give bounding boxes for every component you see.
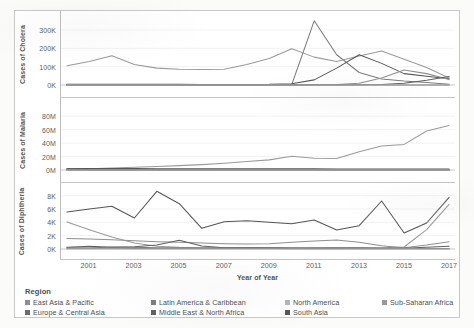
- ylabel-diphtheria: Cases of Diphtheria: [15, 183, 29, 259]
- legend-items: East Asia & PacificEurope & Central Asia…: [25, 298, 455, 320]
- y-tick-label: 300K: [39, 27, 56, 34]
- legend-title: Region: [25, 287, 455, 296]
- y-tick-label: 80M: [42, 113, 56, 120]
- series-line: [67, 238, 449, 247]
- y-tick-label: 4K: [47, 219, 56, 226]
- legend-swatch-icon: [285, 300, 290, 305]
- ylabel-cholera: Cases of Cholera: [15, 11, 29, 97]
- series-line: [67, 21, 449, 85]
- yticks-malaria: 0M20M40M60M80M: [29, 98, 59, 182]
- panel-diphtheria: Cases of Diphtheria 0K2K4K6K8K: [15, 183, 459, 259]
- legend: Region East Asia & PacificEurope & Centr…: [25, 287, 455, 320]
- ylabel-malaria: Cases of Malaria: [15, 98, 29, 182]
- legend-item-label: East Asia & Pacific: [33, 298, 94, 307]
- plot-svg-diphtheria: [61, 183, 455, 259]
- plot-malaria: [60, 98, 455, 182]
- legend-item-label: South Asia: [293, 308, 328, 317]
- x-tick-label: 2007: [216, 261, 232, 270]
- legend-item-label: Europe & Central Asia: [33, 308, 105, 317]
- y-tick-label: 100K: [39, 63, 56, 70]
- legend-item-label: North America: [293, 298, 339, 307]
- y-tick-label: 200K: [39, 45, 56, 52]
- plot-diphtheria: [60, 183, 455, 259]
- legend-item-label: Latin America & Caribbean: [159, 298, 246, 307]
- legend-item[interactable]: South Asia: [285, 308, 328, 317]
- y-tick-label: 40M: [42, 140, 56, 147]
- x-tick-label: 2001: [80, 261, 96, 270]
- x-tick-label: 2009: [261, 261, 277, 270]
- series-line: [67, 191, 449, 233]
- plot-svg-cholera: [61, 11, 455, 97]
- legend-item[interactable]: North America: [285, 298, 339, 307]
- legend-item[interactable]: Latin America & Caribbean: [151, 298, 246, 307]
- y-tick-label: 0K: [47, 82, 56, 89]
- x-tick-label: 2011: [306, 261, 321, 270]
- y-tick-label: 0K: [47, 246, 56, 253]
- legend-item[interactable]: East Asia & Pacific: [25, 298, 94, 307]
- yticks-diphtheria: 0K2K4K6K8K: [29, 183, 59, 259]
- legend-item[interactable]: Middle East & North Africa: [151, 308, 244, 317]
- legend-item[interactable]: Sub-Saharan Africa: [382, 298, 453, 307]
- x-tick-label: 2013: [351, 261, 367, 270]
- y-tick-label: 2K: [47, 232, 56, 239]
- x-axis: 200120032005200720092011201320152017: [60, 260, 455, 274]
- series-line: [67, 49, 449, 78]
- y-tick-label: 60M: [42, 126, 56, 133]
- y-tick-label: 6K: [47, 206, 56, 213]
- y-tick-label: 0M: [46, 167, 56, 174]
- x-tick-label: 2003: [126, 261, 142, 270]
- legend-swatch-icon: [285, 310, 290, 315]
- x-tick-label: 2017: [441, 261, 457, 270]
- series-line: [67, 204, 449, 248]
- yticks-cholera: 0K100K200K300K: [29, 11, 59, 97]
- series-line: [67, 70, 449, 85]
- series-line: [67, 126, 449, 170]
- panel-malaria: Cases of Malaria 0M20M40M60M80M: [15, 98, 459, 182]
- y-tick-label: 20M: [42, 153, 56, 160]
- legend-swatch-icon: [151, 300, 156, 305]
- x-tick-label: 2015: [396, 261, 412, 270]
- legend-item-label: Middle East & North Africa: [159, 308, 244, 317]
- legend-swatch-icon: [151, 310, 156, 315]
- legend-item-label: Sub-Saharan Africa: [390, 298, 453, 307]
- legend-swatch-icon: [25, 300, 30, 305]
- plot-cholera: [60, 11, 455, 97]
- panel-cholera: Cases of Cholera 0K100K200K300K: [15, 11, 459, 97]
- legend-item[interactable]: Europe & Central Asia: [25, 308, 105, 317]
- chart-page: Cases of Cholera 0K100K200K300K Cases of…: [0, 0, 474, 328]
- x-axis-title: Year of Year: [60, 274, 455, 281]
- x-tick-label: 2005: [171, 261, 187, 270]
- plot-svg-malaria: [61, 98, 455, 182]
- series-line: [67, 77, 449, 85]
- chart-frame: Cases of Cholera 0K100K200K300K Cases of…: [14, 10, 460, 318]
- legend-swatch-icon: [382, 300, 387, 305]
- legend-swatch-icon: [25, 310, 30, 315]
- y-tick-label: 8K: [47, 192, 56, 199]
